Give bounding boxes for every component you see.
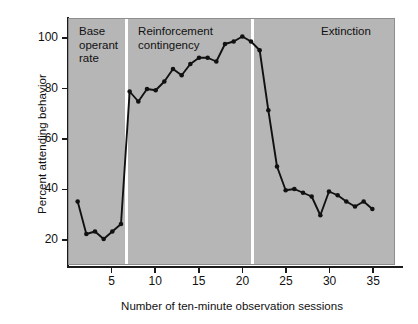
data-point bbox=[197, 55, 202, 60]
data-point bbox=[171, 67, 176, 72]
x-tick-label-25: 25 bbox=[271, 274, 301, 288]
y-tick-label-80: 80 bbox=[18, 81, 58, 95]
data-point bbox=[249, 39, 254, 44]
plot-area: Base operant rateReinforcement contingen… bbox=[68, 18, 395, 265]
x-tick-label-5: 5 bbox=[97, 274, 127, 288]
data-point bbox=[275, 164, 280, 169]
data-point bbox=[370, 207, 375, 212]
data-point bbox=[145, 87, 150, 92]
data-point bbox=[301, 190, 306, 195]
data-point bbox=[231, 39, 236, 44]
data-point bbox=[119, 222, 124, 227]
x-tick-10 bbox=[154, 267, 156, 273]
data-point bbox=[162, 79, 167, 84]
x-tick-5 bbox=[111, 267, 113, 273]
x-tick-15 bbox=[198, 267, 200, 273]
series-line bbox=[78, 36, 373, 239]
data-point bbox=[84, 232, 89, 237]
data-point bbox=[205, 55, 210, 60]
x-tick-35 bbox=[372, 267, 374, 273]
x-tick-20 bbox=[242, 267, 244, 273]
data-point bbox=[266, 108, 271, 113]
data-point bbox=[344, 199, 349, 204]
data-point bbox=[153, 88, 158, 93]
x-axis-title: Number of ten-minute observation session… bbox=[68, 300, 396, 312]
data-point bbox=[179, 73, 184, 78]
data-point bbox=[309, 194, 314, 199]
y-tick-label-100: 100 bbox=[18, 30, 58, 44]
data-point bbox=[283, 188, 288, 193]
x-tick-label-10: 10 bbox=[140, 274, 170, 288]
data-point bbox=[292, 187, 297, 192]
x-tick-30 bbox=[329, 267, 331, 273]
x-tick-label-20: 20 bbox=[227, 274, 257, 288]
data-point bbox=[214, 59, 219, 64]
y-tick-label-40: 40 bbox=[18, 181, 58, 195]
x-axis-line bbox=[67, 266, 403, 268]
x-tick-label-30: 30 bbox=[315, 274, 345, 288]
data-point bbox=[240, 34, 245, 39]
x-tick-25 bbox=[285, 267, 287, 273]
chart-figure: Percent attending behavior Number of ten… bbox=[0, 0, 418, 324]
y-tick-label-60: 60 bbox=[18, 131, 58, 145]
data-point bbox=[223, 42, 228, 47]
x-tick-label-35: 35 bbox=[358, 274, 388, 288]
data-point bbox=[93, 229, 98, 234]
data-point bbox=[335, 193, 340, 198]
data-point bbox=[75, 199, 80, 204]
data-point bbox=[136, 99, 141, 104]
data-point bbox=[110, 229, 115, 234]
data-point bbox=[361, 199, 366, 204]
data-point bbox=[318, 213, 323, 218]
data-point bbox=[327, 189, 332, 194]
y-tick-label-20: 20 bbox=[18, 232, 58, 246]
data-point bbox=[257, 48, 262, 53]
data-point bbox=[127, 89, 132, 94]
data-point bbox=[353, 204, 358, 209]
data-point bbox=[188, 62, 193, 67]
data-point bbox=[101, 237, 106, 242]
x-tick-label-15: 15 bbox=[184, 274, 214, 288]
data-series-line bbox=[69, 19, 394, 264]
